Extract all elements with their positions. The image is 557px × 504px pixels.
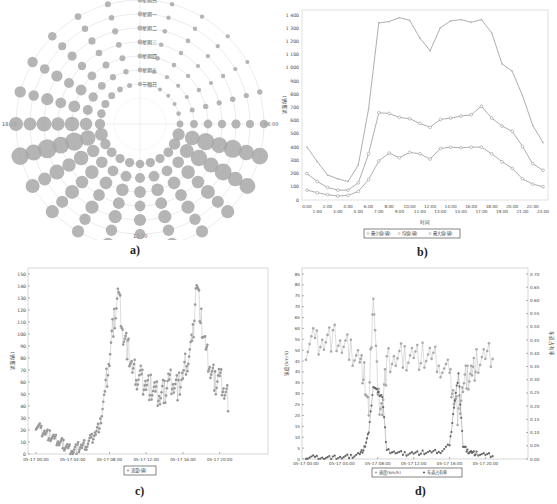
bubble [76, 85, 87, 96]
bubble [9, 117, 23, 131]
y-tick: 100 [17, 332, 26, 337]
bubble [203, 104, 208, 109]
bubble [155, 56, 160, 61]
bubble [134, 214, 146, 226]
y-tick: 0 [23, 452, 26, 457]
bubble [159, 43, 164, 48]
bubble [80, 130, 95, 145]
x-tick: 05-17 00:00 [23, 457, 49, 462]
x-tick: 05-17 12:00 [401, 461, 427, 466]
bubble [135, 201, 146, 212]
bubble [56, 196, 68, 208]
y-tick: 50 [20, 392, 26, 397]
bubble [109, 15, 115, 21]
bubble [138, 40, 143, 45]
bubble [231, 119, 240, 128]
x-tick: 2:00 [323, 204, 333, 209]
bubble [137, 25, 142, 30]
y-tick: 70 [20, 368, 26, 373]
x-tick: 05-17 16:00 [170, 457, 196, 462]
bubble [46, 205, 59, 218]
speed-line [306, 299, 493, 425]
bubble [96, 50, 103, 57]
bubble [110, 74, 116, 80]
y-tick-left: 35 [295, 380, 301, 385]
y-tick: 300 [290, 158, 299, 163]
bubble [158, 87, 162, 91]
x-tick: 6:00 [364, 204, 374, 209]
bubble [221, 205, 234, 218]
legend-item: 速度(km/h) [379, 469, 401, 476]
y-tick: 1 400 [286, 13, 299, 18]
bubble [190, 120, 198, 128]
bubble [180, 144, 194, 158]
y-tick-left: 10 [295, 435, 301, 440]
y-tick-left: 85 [295, 272, 301, 277]
x-axis-label: 时间 [420, 219, 430, 226]
speed-occupancy-chart: 05101520253035404550556065707580850.000.… [280, 262, 557, 484]
bubble [244, 93, 249, 98]
bubble [192, 176, 205, 189]
bubble [179, 51, 183, 55]
bubble [40, 64, 50, 74]
bubble [221, 74, 225, 78]
bubble [197, 88, 201, 92]
y-tick-right: 0.65 [530, 285, 540, 290]
bubble [166, 16, 170, 20]
bubble [116, 42, 122, 48]
y-tick: 1 100 [286, 52, 299, 57]
bubble [96, 156, 108, 168]
y-axis-label: 流量(辆) [281, 96, 288, 115]
bubble [83, 105, 93, 115]
y-tick: 700 [290, 105, 299, 110]
bubble [218, 120, 226, 128]
x-tick: 05-17 16:00 [437, 461, 463, 466]
y-tick-left: 20 [295, 413, 301, 418]
ring-label: 星期一 [142, 11, 157, 18]
bubble [102, 238, 114, 240]
bubble [181, 201, 194, 214]
plot-frame [302, 10, 548, 200]
x-tick: 19:00 [496, 209, 508, 214]
legend-item: 均值(辆) [402, 230, 418, 237]
bubble [149, 171, 160, 182]
bubble [216, 44, 220, 48]
bubble [173, 102, 177, 106]
bubble [200, 14, 204, 18]
x-tick: 05-17 04:00 [60, 457, 86, 462]
bubble [80, 118, 92, 130]
bubble [49, 165, 64, 180]
bubble [85, 201, 98, 214]
bubble [163, 225, 174, 236]
y-tick: 1 200 [286, 39, 299, 44]
bubble [181, 165, 195, 179]
bubble [245, 60, 249, 64]
y-tick-left: 65 [295, 315, 301, 320]
caption-d: d) [415, 484, 426, 499]
x-tick: 15:00 [455, 209, 467, 214]
bubble [85, 165, 99, 179]
bubble [138, 82, 142, 86]
bubble [93, 189, 105, 201]
bubble [88, 37, 95, 44]
x-tick: 8:00 [384, 204, 394, 209]
bubble [155, 197, 167, 209]
y-tick: 400 [290, 145, 299, 150]
bubble [119, 55, 125, 61]
bubble [116, 183, 129, 196]
ring-label: 星期二 [142, 25, 157, 32]
bubble [105, 1, 111, 7]
bubble [101, 100, 109, 108]
x-tick: 23:00 [537, 209, 549, 214]
y-tick: 140 [17, 284, 26, 289]
y-tick-right: 0.00 [530, 457, 540, 462]
bubble [95, 128, 108, 141]
bubble [196, 64, 200, 68]
flow-timeseries-chart: 0102030405060708090100110120130140150流量(… [0, 262, 280, 484]
bubble [100, 177, 113, 190]
bubble [260, 120, 269, 129]
y-tick: 60 [20, 380, 26, 385]
y-tick: 10 [20, 440, 26, 445]
y-tick-right: 0.45 [530, 338, 540, 343]
bubble [185, 95, 189, 99]
